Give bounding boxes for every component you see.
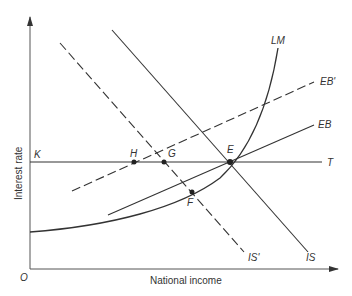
lm-curve (30, 48, 278, 232)
svg-text:F: F (187, 197, 194, 208)
point-e: E (227, 144, 234, 165)
lm-label: LM (271, 35, 286, 46)
t-label: T (327, 157, 334, 168)
eb-label: EB (318, 119, 332, 130)
svg-text:H: H (130, 148, 138, 159)
x-axis-title: National income (150, 275, 222, 286)
axes (30, 17, 338, 269)
k-label: K (34, 149, 42, 160)
origin-label: O (20, 272, 28, 283)
is-prime-label: IS' (248, 252, 260, 263)
eb-curve (108, 125, 314, 215)
point-f: F (187, 190, 195, 209)
svg-text:G: G (168, 148, 176, 159)
svg-text:E: E (227, 144, 234, 155)
y-axis-title: Interest rate (13, 146, 24, 200)
is-lm-eb-diagram: O National income Interest rate K T IS I… (0, 0, 352, 296)
eb-prime-label: EB' (320, 76, 336, 87)
is-label: IS (306, 252, 316, 263)
